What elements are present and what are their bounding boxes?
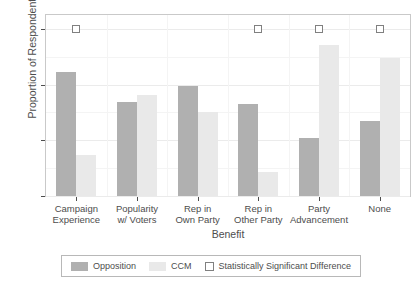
chart-legend: OppositionCCMStatistically Significant D… [61,255,361,277]
gridline-vertical [289,15,290,196]
x-tick-label: None [337,203,414,214]
x-tick-mark [319,197,320,201]
significance-square-icon [376,25,384,33]
y-tick-mark [41,85,45,86]
legend-entry-sig: Statistically Significant Difference [205,261,351,271]
bar-opposition-5 [360,121,380,196]
significance-square-icon [254,25,262,33]
bar-opposition-3 [238,104,258,196]
plot-panel [45,14,411,197]
x-tick-label-line: None [337,203,414,214]
significance-square-swatch [205,262,214,271]
significance-square-icon [72,25,80,33]
x-tick-mark [380,197,381,201]
bar-ccm-0 [76,155,96,196]
gridline-major [46,196,410,197]
legend-label: Statistically Significant Difference [219,261,351,271]
bar-ccm-3 [258,172,278,197]
bar-ccm-4 [319,45,339,196]
x-tick-mark [198,197,199,201]
bar-ccm-5 [380,58,400,196]
bar-opposition-0 [56,72,76,196]
x-tick-label-line: Advancement [276,214,362,225]
legend-label: CCM [171,261,192,271]
gridline-vertical [107,15,108,196]
x-tick-mark [258,197,259,201]
x-axis-title: Benefit [45,228,411,240]
bar-opposition-2 [178,86,198,196]
gridline-vertical [228,15,229,196]
y-tick-mark [41,140,45,141]
gridline-vertical [167,15,168,196]
legend-label: Opposition [93,261,136,271]
y-tick-mark [41,196,45,197]
bar-chart: Proportion of Respondents 0.00.20.40.6 C… [0,0,414,283]
y-tick-mark [41,29,45,30]
bar-ccm-2 [198,112,218,196]
opposition-swatch [71,262,88,271]
bar-ccm-1 [137,95,157,196]
gridline-vertical [349,15,350,196]
significance-square-icon [315,25,323,33]
x-tick-mark [137,197,138,201]
y-axis-title: Proportion of Respondents [26,0,38,141]
ccm-swatch [149,262,166,271]
legend-entry-opposition: Opposition [71,261,136,271]
bar-opposition-4 [299,138,319,196]
bar-opposition-1 [117,102,137,196]
legend-entry-ccm: CCM [149,261,192,271]
x-tick-mark [76,197,77,201]
